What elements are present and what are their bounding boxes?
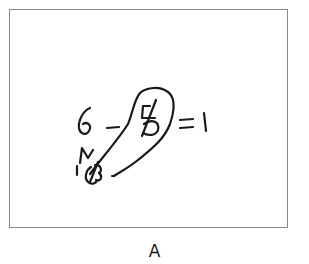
scribble-n — [80, 148, 93, 163]
annotation-16-struck — [86, 162, 101, 184]
lasso-loop — [90, 88, 174, 176]
equals-sign-top — [180, 119, 193, 120]
equals-sign-bottom — [180, 127, 193, 128]
digit-1 — [204, 113, 206, 131]
minus-sign — [107, 127, 119, 128]
handwriting-sketch — [0, 0, 309, 264]
figure-caption: A — [0, 241, 309, 261]
digit-6 — [79, 108, 90, 134]
